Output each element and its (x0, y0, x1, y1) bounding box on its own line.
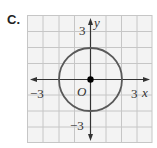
y-tick-pos3: 3 (79, 23, 86, 38)
x-axis-label: x (141, 85, 148, 100)
x-tick-neg3: −3 (30, 86, 44, 101)
coordinate-graph: −3 3 x 3 y −3 O (0, 0, 157, 148)
y-tick-neg3: −3 (70, 118, 84, 133)
y-axis-label: y (92, 15, 100, 30)
center-point (87, 76, 93, 82)
x-tick-pos3: 3 (131, 86, 138, 101)
origin-label: O (77, 84, 87, 99)
